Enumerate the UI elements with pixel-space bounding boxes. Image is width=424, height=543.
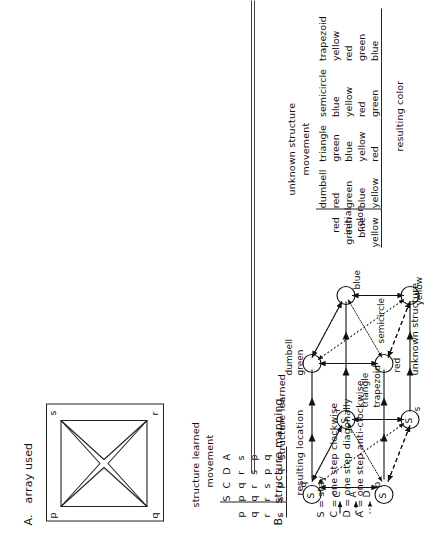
col-header-dumbell: dumbell [316, 161, 329, 208]
cube-node-label-blue: blue [352, 270, 362, 289]
row-header-yellow: yellow [368, 208, 382, 247]
array-cross-shape [55, 414, 153, 512]
cell: green [342, 161, 355, 208]
cell: blue [342, 117, 355, 162]
cube-node-label-red: red [392, 357, 402, 372]
table-row: red red green blue yellow [329, 8, 342, 247]
cell: s [234, 446, 247, 460]
cell: blue [329, 61, 342, 117]
panel-a-letter: A. [22, 514, 35, 525]
cube-key-label-c: C [332, 491, 342, 497]
divider-rule-top [251, 0, 252, 473]
cell: red [355, 61, 368, 117]
cell: red [368, 117, 382, 162]
panel-a-title: array used [22, 442, 35, 503]
cell: red [329, 161, 342, 208]
cube-edge-label-triangle: triangle [360, 372, 370, 407]
cell: green [368, 61, 382, 117]
unknown-structure-footer: resulting color [394, 80, 405, 151]
cell: r [234, 460, 247, 474]
array-corner-s: s [47, 410, 58, 415]
cell: yellow [342, 61, 355, 117]
cube-node-label-q: q [298, 481, 308, 487]
col-header-semicircle: semicircle [316, 61, 329, 117]
cell: p [234, 488, 247, 502]
array-corner-p: p [47, 512, 58, 518]
cell: q [234, 474, 247, 488]
cube-top-caption: structure learned [276, 374, 287, 459]
cube-key-label-a: A [348, 491, 358, 497]
cube-self-loop-label-s-2: S [378, 492, 388, 498]
array-corner-r: r [149, 411, 160, 415]
structure-mapping-diagram: q p r s S S S S green red blue yellow du… [292, 265, 420, 515]
cube-node-label-p: p [372, 481, 382, 487]
cell: yellow [368, 161, 382, 208]
cube-self-loop-label-s-1: S [306, 492, 316, 498]
cell: blue [368, 8, 382, 61]
cube-self-loop-label-s-4: S [404, 417, 414, 423]
cube-node-label-r: r [332, 407, 342, 411]
structure-learned-title: structure learned [190, 422, 201, 507]
cell: green [329, 117, 342, 162]
table-row: yellow yellow red green blue [368, 8, 382, 247]
unknown-structure-table: dumbell triangle semicircle trapezoid re… [316, 8, 382, 247]
cube-bottom-caption: unknown structure [409, 282, 420, 375]
cube-edge-label-semicircle: semicircle [376, 298, 386, 343]
table-row: p p q r s [234, 446, 247, 517]
panel-b: B. structure mapping [272, 5, 422, 525]
cell: blue [355, 161, 368, 208]
col-header-s: S [220, 488, 234, 502]
cell: red [342, 8, 355, 61]
corner-cell [316, 208, 329, 247]
col-header-d: D [220, 460, 234, 474]
cube-node-label-s: s [412, 406, 422, 411]
array-diagram [46, 403, 164, 521]
row-header-blue: blue [355, 208, 368, 247]
corner-cell [220, 501, 234, 517]
panel-divider [251, 0, 255, 543]
cube-self-loop-label-s-3: S [340, 417, 350, 423]
array-corner-q: q [149, 512, 160, 518]
cube-node-label-green: green [295, 349, 305, 375]
cube-key-label-d: D [362, 490, 372, 497]
col-header-c: C [220, 474, 234, 488]
divider-rule-bottom [254, 0, 255, 473]
cube-edge-label-trapezoid: trapezoid [372, 365, 382, 407]
row-header-green: green [342, 208, 355, 247]
table-header-row: S C D A [220, 446, 234, 517]
cell: yellow [329, 8, 342, 61]
structure-learned-subtitle: movement [204, 434, 215, 487]
col-header-triangle: triangle [316, 117, 329, 162]
cell: green [355, 8, 368, 61]
table-header-row: dumbell triangle semicircle trapezoid [316, 8, 329, 247]
table-row: green green blue yellow red [342, 8, 355, 247]
unknown-structure-title: unknown structure [286, 102, 297, 195]
row-header-p: p [234, 501, 247, 517]
table-row: blue blue yellow red green [355, 8, 368, 247]
cube-edge-label-dumbell: dumbell [284, 339, 294, 375]
unknown-structure-subtitle: movement [300, 122, 311, 175]
panel-b-letter: B. [272, 514, 285, 525]
col-header-a: A [220, 446, 234, 460]
row-header-red: red [329, 208, 342, 247]
cell: yellow [355, 117, 368, 162]
col-header-trapezoid: trapezoid [316, 8, 329, 61]
